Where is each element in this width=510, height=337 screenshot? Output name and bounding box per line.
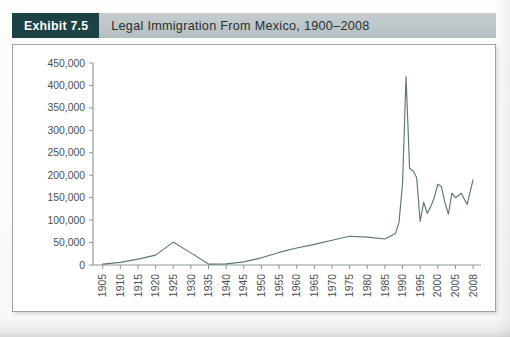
y-axis-tick-label: 450,000 (47, 58, 85, 69)
y-axis-tick-label: 350,000 (47, 102, 85, 113)
x-axis-tick-label: 1905 (97, 274, 108, 297)
x-axis-tick-label: 1945 (238, 274, 249, 297)
x-axis-tick-label: 1950 (256, 274, 267, 297)
x-axis-tick-label: 1975 (344, 274, 355, 297)
x-axis-tick-label: 1995 (415, 274, 426, 297)
y-axis-tick-label: 50,000 (53, 237, 85, 248)
chart-frame: 050,000100,000150,000200,000250,000300,0… (12, 44, 496, 312)
exhibit-number-badge: Exhibit 7.5 (12, 13, 99, 38)
y-axis-tick-label: 150,000 (47, 192, 85, 203)
x-axis-tick-marks (103, 265, 473, 269)
x-axis-tick-label: 2000 (432, 274, 443, 297)
x-axis-tick-label: 1970 (327, 274, 338, 297)
x-axis-tick-label: 1915 (133, 274, 144, 297)
exhibit-header: Exhibit 7.5 Legal Immigration From Mexic… (12, 13, 496, 38)
x-axis-tick-label: 1925 (168, 274, 179, 297)
x-axis-tick-label: 2005 (450, 274, 461, 297)
y-axis-tick-labels: 050,000100,000150,000200,000250,000300,0… (47, 58, 85, 271)
x-axis-tick-label: 1990 (397, 274, 408, 297)
y-axis-tick-label: 400,000 (47, 80, 85, 91)
x-axis-tick-label: 2008 (468, 274, 479, 297)
x-axis-tick-label: 1985 (380, 274, 391, 297)
x-axis-tick-label: 1960 (291, 274, 302, 297)
y-axis-tick-label: 200,000 (47, 170, 85, 181)
exhibit-title: Legal Immigration From Mexico, 1900–2008 (111, 19, 369, 33)
exhibit-title-bar: Legal Immigration From Mexico, 1900–2008 (99, 13, 496, 38)
x-axis-tick-label: 1930 (186, 274, 197, 297)
scan-edge-shadow-bottom (0, 319, 510, 337)
line-chart: 050,000100,000150,000200,000250,000300,0… (13, 45, 497, 313)
x-axis-tick-labels: 1905191019151920192519301935194019451950… (97, 274, 478, 297)
x-axis-tick-label: 1940 (221, 274, 232, 297)
y-axis-tick-label: 300,000 (47, 125, 85, 136)
x-axis-tick-label: 1935 (203, 274, 214, 297)
x-axis-tick-label: 1920 (150, 274, 161, 297)
scan-edge-shadow-right (496, 0, 510, 337)
scanned-page: Exhibit 7.5 Legal Immigration From Mexic… (0, 0, 510, 337)
y-axis-tick-label: 250,000 (47, 147, 85, 158)
x-axis-tick-label: 1910 (115, 274, 126, 297)
y-axis-tick-label: 100,000 (47, 215, 85, 226)
data-series-line (103, 76, 473, 264)
y-axis-tick-marks (89, 63, 93, 265)
x-axis-tick-label: 1980 (362, 274, 373, 297)
y-axis-tick-label: 0 (79, 260, 85, 271)
x-axis-tick-label: 1955 (274, 274, 285, 297)
x-axis-tick-label: 1965 (309, 274, 320, 297)
